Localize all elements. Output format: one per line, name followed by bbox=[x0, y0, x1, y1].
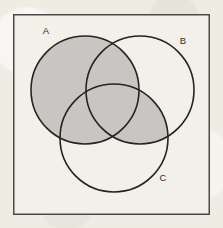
set-label-b: B bbox=[180, 35, 187, 46]
venn-diagram-figure: A B C bbox=[0, 0, 223, 228]
set-label-c: C bbox=[159, 172, 166, 183]
venn-diagram-canvas: A B C bbox=[0, 0, 223, 228]
set-label-a: A bbox=[43, 25, 50, 36]
